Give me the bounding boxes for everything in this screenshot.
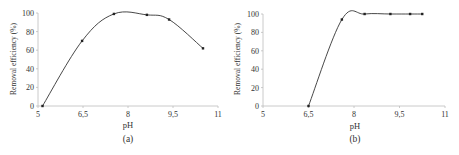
data-point-marker [168,18,170,20]
chart-b-line [309,11,423,106]
chart-panel-a: 56,589,511020406080100 pH (a) Removal ef… [0,0,229,155]
data-point-marker [341,18,343,20]
chart-a-svg: 56,589,511020406080100 pH (a) Removal ef… [0,0,229,155]
data-point-marker [409,13,411,15]
y-tick-label: 20 [251,84,259,93]
chart-b-svg: 56,589,511020406080100 pH (b) Removal ef… [230,0,459,155]
x-tick-label: 5 [36,110,40,119]
data-point-marker [363,13,365,15]
y-tick-label: 60 [251,47,259,56]
chart-b-axes: 56,589,511020406080100 [247,10,449,119]
data-point-marker [41,105,43,107]
y-tick-label: 40 [251,65,259,74]
data-point-marker [307,105,309,107]
data-point-marker [81,40,83,42]
chart-b-xlabel: pH [350,121,360,131]
data-point-marker [113,13,115,15]
y-tick-label: 80 [26,28,34,37]
chart-a-line [43,12,204,106]
data-point-marker [389,13,391,15]
y-tick-label: 0 [30,102,34,111]
x-tick-label: 5 [261,110,265,119]
data-point-marker [202,47,204,49]
y-tick-label: 0 [255,102,259,111]
y-tick-label: 100 [22,9,34,18]
data-point-marker [146,14,148,16]
y-tick-label: 80 [251,28,259,37]
chart-b-panel-label: (b) [349,134,360,145]
chart-b-ylabel: Removal efficiency (%) [233,23,242,95]
x-tick-label: 8 [126,110,130,119]
x-tick-label: 6,5 [78,110,88,119]
chart-a-ylabel: Removal efficiency (%) [9,23,18,95]
chart-a-xlabel: pH [123,120,133,130]
y-tick-label: 100 [247,10,259,19]
x-tick-label: 11 [441,110,449,119]
x-tick-label: 9,5 [395,110,405,119]
x-tick-label: 9,5 [168,110,178,119]
data-point-marker [421,13,423,15]
x-tick-label: 8 [352,110,356,119]
chart-a-axes: 56,589,511020406080100 [22,9,222,119]
x-tick-label: 11 [214,110,222,119]
x-tick-label: 6,5 [304,110,314,119]
y-tick-label: 40 [26,65,34,74]
y-tick-label: 60 [26,46,34,55]
chart-panel-b: 56,589,511020406080100 pH (b) Removal ef… [230,0,459,155]
chart-a-panel-label: (a) [123,134,134,145]
y-tick-label: 20 [26,83,34,92]
chart-a-markers [41,13,204,107]
